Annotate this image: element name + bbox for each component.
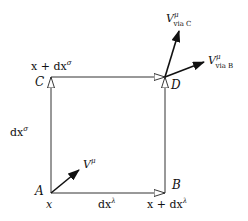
- coord-B: x + dxλ: [147, 197, 187, 211]
- point-C-label: C: [35, 75, 44, 89]
- parallel-transport-diagram: A B C D x x + dxλ x + dxσ dxλ dxσ Vμ Vμv…: [0, 0, 248, 221]
- point-A-label: A: [34, 184, 44, 198]
- loop-square: [51, 77, 165, 193]
- vector-V-initial-arrow: [51, 170, 79, 193]
- point-D-label: D: [170, 78, 181, 92]
- vector-V-via-C-arrow: [165, 31, 179, 77]
- point-B-label: B: [171, 178, 181, 192]
- vector-V-via-B-arrow: [165, 62, 204, 77]
- vector-V-via-C-label: Vμvia C: [166, 11, 191, 28]
- edge-label-left: dxσ: [10, 125, 28, 139]
- coord-A: x: [46, 198, 53, 211]
- vector-V-initial-label: Vμ: [83, 157, 96, 171]
- vector-V-via-B-label: Vμvia B: [208, 53, 233, 70]
- edge-label-bottom: dxλ: [98, 197, 116, 211]
- coord-C: x + dxσ: [31, 59, 72, 73]
